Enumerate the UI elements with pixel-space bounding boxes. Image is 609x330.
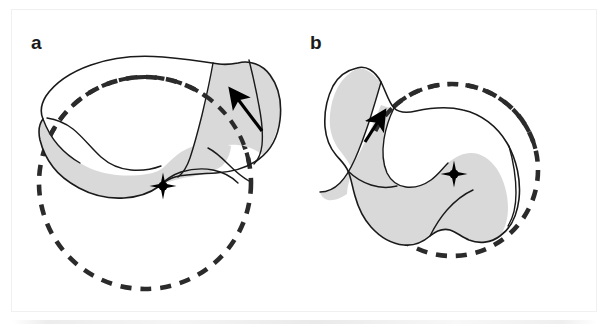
panel-b-drawing: [296, 0, 601, 330]
panel-b: b: [296, 0, 601, 330]
best-fit-circle-b-top-arc: [375, 84, 537, 157]
page-scan-artifact: [12, 320, 597, 324]
panel-a-drawing: [0, 0, 305, 330]
panel-a: a: [0, 0, 305, 330]
figure-root: a: [0, 0, 609, 330]
